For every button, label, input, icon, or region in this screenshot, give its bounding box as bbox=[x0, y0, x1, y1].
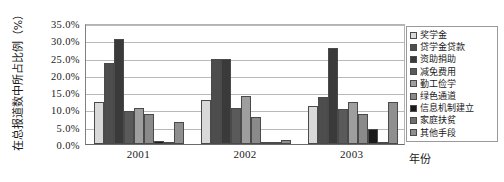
legend-item[interactable]: 家庭扶贫 bbox=[410, 114, 495, 126]
legend-label: 勤工俭学 bbox=[420, 79, 456, 89]
bar bbox=[281, 140, 291, 144]
bar bbox=[368, 129, 378, 144]
legend-swatch-icon bbox=[410, 44, 417, 51]
legend-swatch-icon bbox=[410, 68, 417, 75]
legend-swatch-icon bbox=[410, 117, 417, 124]
bar bbox=[261, 142, 271, 144]
legend-label: 家庭扶贫 bbox=[420, 115, 456, 125]
y-axis-tick-labels: 0.0%5.0%10.0%15.0%20.0%25.0%30.0%35.0% bbox=[30, 19, 83, 151]
bar bbox=[164, 142, 174, 144]
bar bbox=[94, 102, 104, 144]
bar bbox=[338, 109, 348, 144]
bars-layer bbox=[86, 25, 404, 144]
x-axis-tick-labels: 200120022003 bbox=[85, 148, 405, 166]
legend-label: 资助捐助 bbox=[420, 54, 456, 64]
bar bbox=[378, 142, 388, 144]
legend-item[interactable]: 其他手段 bbox=[410, 127, 495, 139]
legend-label: 绿色通道 bbox=[420, 91, 456, 101]
bar bbox=[221, 59, 231, 144]
legend: 奖学金贷学金贷款资助捐助减免费用勤工俭学绿色通道信息机制建立家庭扶贫其他手段 bbox=[406, 26, 498, 142]
legend-swatch-icon bbox=[410, 93, 417, 100]
y-tick-label: 35.0% bbox=[51, 19, 80, 30]
y-axis-title: 在总报道数中所占比例（%） bbox=[0, 0, 34, 160]
legend-item[interactable]: 奖学金 bbox=[410, 29, 495, 41]
bar bbox=[114, 39, 124, 144]
bar-group-2003 bbox=[308, 25, 398, 144]
legend-item[interactable]: 勤工俭学 bbox=[410, 78, 495, 90]
x-axis-title: 年份 bbox=[409, 150, 431, 166]
bar bbox=[251, 117, 261, 144]
bar-chart: 在总报道数中所占比例（%） 0.0%5.0%10.0%15.0%20.0%25.… bbox=[0, 0, 504, 182]
bar bbox=[318, 97, 328, 144]
legend-label: 信息机制建立 bbox=[420, 103, 474, 113]
legend-swatch-icon bbox=[410, 56, 417, 63]
legend-label: 其他手段 bbox=[420, 128, 456, 138]
y-tick-label: 0.0% bbox=[57, 140, 80, 151]
bar-group-2001 bbox=[94, 25, 184, 144]
x-tick-label: 2003 bbox=[340, 148, 363, 160]
x-tick-label: 2001 bbox=[127, 148, 150, 160]
legend-swatch-icon bbox=[410, 105, 417, 112]
bar bbox=[308, 106, 318, 144]
bar bbox=[211, 59, 221, 144]
y-tick-label: 10.0% bbox=[51, 105, 80, 116]
bar bbox=[124, 111, 134, 144]
legend-swatch-icon bbox=[410, 80, 417, 87]
legend-item[interactable]: 绿色通道 bbox=[410, 90, 495, 102]
bar bbox=[134, 108, 144, 144]
legend-label: 贷学金贷款 bbox=[420, 42, 465, 52]
bar bbox=[201, 100, 211, 144]
bar bbox=[348, 102, 358, 144]
bar bbox=[144, 114, 154, 144]
y-tick-label: 25.0% bbox=[51, 53, 80, 64]
legend-label: 减免费用 bbox=[420, 67, 456, 77]
y-axis-title-text: 在总报道数中所占比例（%） bbox=[9, 9, 25, 151]
legend-item[interactable]: 减免费用 bbox=[410, 66, 495, 78]
bar bbox=[154, 141, 164, 144]
legend-label: 奖学金 bbox=[420, 30, 447, 40]
legend-item[interactable]: 贷学金贷款 bbox=[410, 41, 495, 53]
y-tick-label: 15.0% bbox=[51, 88, 80, 99]
bar bbox=[231, 108, 241, 144]
bar bbox=[174, 122, 184, 144]
bar bbox=[271, 142, 281, 144]
legend-item[interactable]: 资助捐助 bbox=[410, 53, 495, 65]
bar-group-2002 bbox=[201, 25, 291, 144]
y-tick-label: 20.0% bbox=[51, 70, 80, 81]
bar bbox=[241, 96, 251, 144]
bar bbox=[104, 63, 114, 144]
plot-area bbox=[85, 24, 405, 145]
bar bbox=[388, 102, 398, 144]
bar bbox=[358, 114, 368, 144]
x-tick-label: 2002 bbox=[233, 148, 256, 160]
bar bbox=[328, 48, 338, 144]
legend-item[interactable]: 信息机制建立 bbox=[410, 102, 495, 114]
legend-swatch-icon bbox=[410, 32, 417, 39]
y-tick-label: 5.0% bbox=[57, 122, 80, 133]
y-tick-label: 30.0% bbox=[51, 36, 80, 47]
legend-swatch-icon bbox=[410, 129, 417, 136]
